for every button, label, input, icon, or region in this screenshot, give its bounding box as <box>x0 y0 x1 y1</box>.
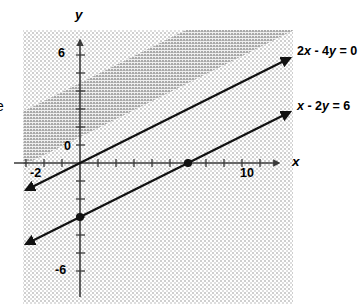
y-tick-label-neg6: -6 <box>55 264 66 277</box>
eq2-minus-2: - 2 <box>304 99 322 113</box>
eq1-minus-4: - 4 <box>311 44 329 58</box>
eq1-equals: = 0 <box>336 44 357 58</box>
point-6-0 <box>184 159 192 167</box>
x-tick-label-10: 10 <box>240 167 254 180</box>
eq1-var-x: x <box>304 44 311 58</box>
point-0-neg3 <box>76 213 84 221</box>
equation-label-line1: 2x - 4y = 0 <box>297 45 357 58</box>
cropped-edge-text: e <box>0 99 4 113</box>
eq1-var-y: y <box>329 44 336 58</box>
graph-figure: y x 0 -2 10 6 -6 2x - 4y = 0 x - 2y = 6 … <box>0 0 363 304</box>
eq2-var-x: x <box>297 99 304 113</box>
eq1-coefficient: 2 <box>297 44 304 58</box>
equation-label-line2: x - 2y = 6 <box>297 100 350 113</box>
x-axis-label: x <box>292 155 300 169</box>
y-tick-label-6: 6 <box>58 47 65 60</box>
eq2-var-y: y <box>322 99 329 113</box>
origin-label: 0 <box>64 140 71 153</box>
eq2-equals: = 6 <box>329 99 350 113</box>
x-tick-label-neg2: -2 <box>30 167 41 180</box>
y-axis-label: y <box>75 8 83 22</box>
